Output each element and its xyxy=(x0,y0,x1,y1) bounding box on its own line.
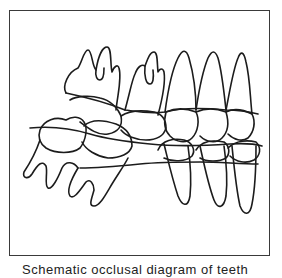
upper-molar-1-inner xyxy=(96,68,104,80)
upper-molar-2 xyxy=(125,52,165,115)
lower-premolar-1 xyxy=(164,144,191,204)
upper-canine xyxy=(226,53,252,114)
upper-molar-2-inner xyxy=(145,66,154,84)
upper-crown-pm2 xyxy=(196,109,228,142)
upper-crown-molar xyxy=(70,96,121,134)
lower-molar-1-crown xyxy=(39,117,86,152)
figure-caption: Schematic occlusal diagram of teeth xyxy=(22,262,272,278)
upper-crown-m2 xyxy=(121,111,166,140)
upper-premolar-1 xyxy=(165,51,196,112)
upper-crown-pm1 xyxy=(165,109,198,142)
lower-molar-1-root xyxy=(24,140,78,188)
upper-crown-canine xyxy=(226,110,254,140)
upper-premolar-2 xyxy=(196,52,226,110)
lower-canine xyxy=(232,146,256,213)
lower-molar-2-crown xyxy=(82,121,132,159)
lower-premolar-2 xyxy=(200,146,227,206)
upper-molar-1 xyxy=(65,47,120,110)
